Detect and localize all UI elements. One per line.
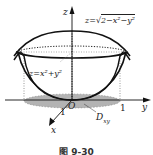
upper-surface-lhs: z= <box>85 16 96 25</box>
x-tick-label: 1 <box>60 108 66 117</box>
x-axis-hidden <box>60 52 72 62</box>
y-axis-label: y <box>142 103 147 112</box>
region-label-sub: xy <box>103 117 110 124</box>
upper-surface-label: z=√2−x²−y² <box>85 17 135 25</box>
z-axis-arrow-icon <box>70 6 75 14</box>
z-axis-label: z <box>63 8 68 17</box>
region-label: Dxy <box>96 113 110 124</box>
figure-caption: 图 9-30 <box>0 145 153 155</box>
x-axis-label: x <box>51 126 56 135</box>
origin-label: O <box>68 102 75 111</box>
upper-surface-radicand: 2−x²−y² <box>101 14 135 25</box>
lower-surface-label: z=x²+y² <box>29 70 62 78</box>
y-tick-label: 1 <box>120 104 126 113</box>
